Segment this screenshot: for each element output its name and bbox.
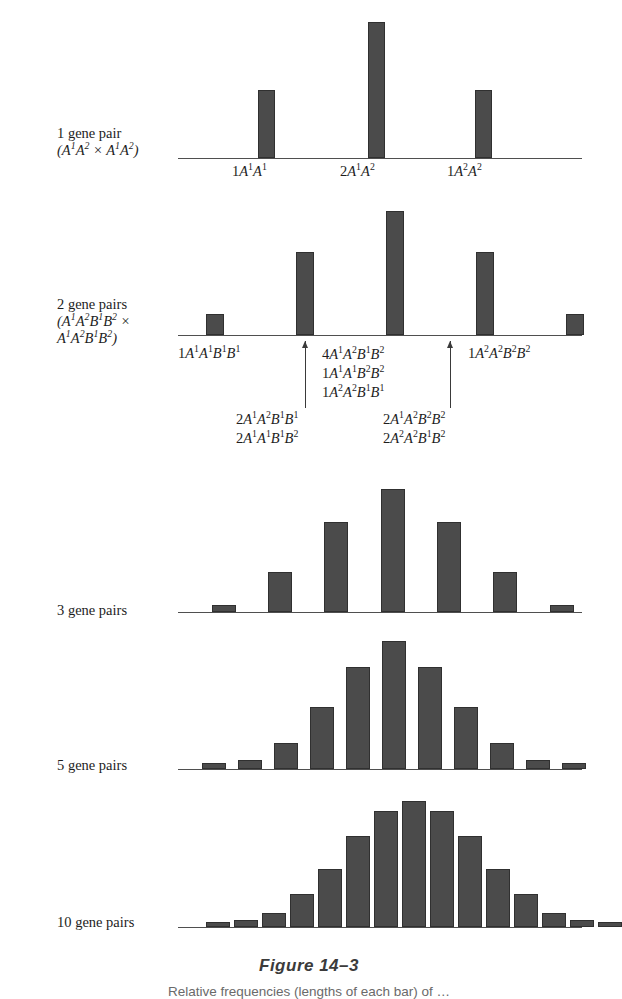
arrow-note-left: 2A1A2B1B1 2A1A1B1B2	[236, 410, 298, 448]
bar	[318, 869, 342, 927]
bar	[542, 913, 566, 927]
panel-label-two-gene-pairs: 2 gene pairs (A1A2B1B2 × A1A2B1B2)	[57, 296, 130, 347]
figure-description: Relative frequencies (lengths of each ba…	[0, 984, 618, 999]
bar	[437, 522, 461, 612]
arrow-note-line: 2A1A2B1B1	[236, 410, 298, 429]
bar	[274, 743, 298, 769]
bar	[202, 763, 226, 769]
center-class-stack: 4A1A2B1B2 1A1A1B2B2 1A2A2B1B1	[322, 345, 384, 402]
arrow-up-icon	[305, 341, 306, 408]
bar	[562, 763, 586, 769]
bar	[475, 90, 492, 158]
bar	[268, 572, 292, 612]
bar	[402, 801, 426, 927]
bar	[550, 605, 574, 612]
arrow-note-line: 2A1A1B1B2	[236, 429, 298, 448]
panel-label-cross-line2: A1A2B1B2)	[57, 330, 130, 347]
bar	[454, 707, 478, 769]
panel-label-line1: 10 gene pairs	[57, 914, 134, 931]
panel-ten-gene-pairs: 10 gene pairs	[0, 775, 618, 935]
arrow-up-icon	[450, 341, 451, 408]
panel-one-gene-pair: 1 gene pair (A1A2 × A1A2) 1A1A1 2A1A2 1A…	[0, 0, 618, 195]
arrow-note-right: 2A1A2B2B2 2A2A2B1B2	[383, 410, 445, 448]
bar	[430, 811, 454, 927]
bar	[374, 811, 398, 927]
panel-five-gene-pairs: 5 gene pairs	[0, 620, 618, 775]
panel-label-one-gene-pair: 1 gene pair (A1A2 × A1A2)	[57, 125, 139, 159]
axis-baseline	[178, 335, 582, 336]
bar	[346, 667, 370, 769]
bar	[234, 920, 258, 927]
bar	[570, 920, 594, 927]
center-class-line: 4A1A2B1B2	[322, 345, 384, 364]
bar	[212, 605, 236, 612]
panel-label-line1: 3 gene pairs	[57, 602, 127, 619]
panel-label-three-gene-pairs: 3 gene pairs	[57, 602, 127, 619]
bar	[206, 314, 224, 335]
bar	[296, 252, 314, 335]
bar	[486, 869, 510, 927]
plot-one-gene-pair	[178, 20, 582, 159]
bar	[566, 314, 584, 335]
bar	[386, 211, 404, 335]
bar	[290, 894, 314, 927]
bar	[490, 743, 514, 769]
panel-three-gene-pairs: 3 gene pairs	[0, 470, 618, 620]
panel-label-line1: 2 gene pairs	[57, 296, 130, 313]
panel-label-line1: 5 gene pairs	[57, 757, 127, 774]
panel-label-ten-gene-pairs: 10 gene pairs	[57, 914, 134, 931]
bar	[476, 252, 494, 335]
bar	[526, 760, 550, 769]
plot-two-gene-pairs	[178, 210, 582, 336]
arrow-note-line: 2A1A2B2B2	[383, 410, 445, 429]
panel-two-gene-pairs: 2 gene pairs (A1A2B1B2 × A1A2B1B2) 1A1A1…	[0, 195, 618, 470]
axis-baseline	[178, 769, 582, 770]
bar	[493, 572, 517, 612]
bar	[310, 707, 334, 769]
bar	[262, 913, 286, 927]
plot-ten-gene-pairs	[178, 789, 582, 928]
panel-label-line1: 1 gene pair	[57, 125, 139, 142]
category-label: 1A1A1B1B1	[178, 345, 240, 362]
arrow-note-line: 2A2A2B1B2	[383, 429, 445, 448]
bar	[382, 641, 406, 769]
bar	[418, 667, 442, 769]
category-label: 1A2A2	[447, 163, 482, 180]
axis-baseline	[178, 927, 582, 928]
plot-five-gene-pairs	[178, 638, 582, 770]
bar	[598, 922, 622, 927]
bar	[381, 489, 405, 612]
panel-label-five-gene-pairs: 5 gene pairs	[57, 757, 127, 774]
center-class-line: 1A2A2B1B1	[322, 383, 384, 402]
plot-three-gene-pairs	[178, 488, 582, 613]
bar	[238, 760, 262, 769]
bar	[206, 922, 230, 927]
figure-caption: Figure 14–3	[0, 956, 618, 976]
bar	[258, 90, 275, 158]
category-label: 1A2A2B2B2	[468, 345, 530, 362]
category-label: 2A1A2	[340, 163, 375, 180]
axis-baseline	[178, 612, 582, 613]
bar	[324, 522, 348, 612]
bar	[368, 22, 385, 158]
bar	[458, 836, 482, 927]
category-label: 1A1A1	[232, 163, 267, 180]
bar	[346, 836, 370, 927]
axis-baseline	[178, 158, 582, 159]
bar	[514, 894, 538, 927]
center-class-line: 1A1A1B2B2	[322, 364, 384, 383]
panel-label-cross: (A1A2 × A1A2)	[57, 142, 139, 159]
